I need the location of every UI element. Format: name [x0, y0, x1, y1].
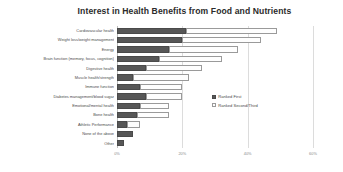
chart-row: Diabetes management/blood sugar: [0, 92, 343, 101]
bar-segment-ranked-second-third: [146, 65, 202, 71]
category-label: None of the above: [0, 129, 114, 138]
category-label: Weight loss/weight management: [0, 35, 114, 44]
stacked-bar: [117, 56, 222, 62]
bar-segment-ranked-first: [117, 93, 146, 99]
category-label: Immune function: [0, 82, 114, 91]
bar-segment-ranked-second-third: [140, 84, 182, 90]
stacked-bar: [117, 112, 169, 118]
chart-row: Muscle health/strength: [0, 73, 343, 82]
bar-segment-ranked-second-third: [137, 112, 170, 118]
bar-segment-ranked-first: [117, 140, 124, 146]
chart-container: Interest in Health Benefits from Food an…: [0, 0, 343, 172]
stacked-bar: [117, 65, 202, 71]
chart-legend: Ranked First Ranked Second/Third: [212, 93, 258, 110]
chart-row: Athletic Performance: [0, 120, 343, 129]
bar-segment-ranked-second-third: [186, 28, 277, 34]
bar-segment-ranked-first: [117, 28, 186, 34]
stacked-bar: [117, 28, 277, 34]
chart-row: Weight loss/weight management: [0, 35, 343, 44]
chart-row: Cardiovascular health: [0, 26, 343, 35]
chart-row: None of the above: [0, 129, 343, 138]
stacked-bar: [117, 140, 124, 146]
x-axis: 0%20%40%60%: [117, 149, 313, 163]
bar-segment-ranked-first: [117, 65, 146, 71]
stacked-bar: [117, 93, 182, 99]
stacked-bar: [117, 74, 189, 80]
bar-segment-ranked-first: [117, 56, 159, 62]
bar-segment-ranked-first: [117, 37, 182, 43]
bar-segment-ranked-second-third: [127, 121, 140, 127]
bar-segment-ranked-second-third: [159, 56, 221, 62]
x-tick-label: 60%: [309, 151, 317, 156]
category-label: Energy: [0, 45, 114, 54]
bar-segment-ranked-first: [117, 74, 133, 80]
bar-segment-ranked-first: [117, 121, 127, 127]
stacked-bar: [117, 103, 169, 109]
bar-segment-ranked-first: [117, 131, 133, 137]
bar-segment-ranked-first: [117, 103, 140, 109]
chart-title: Interest in Health Benefits from Food an…: [0, 6, 343, 16]
category-label: Cardiovascular health: [0, 26, 114, 35]
x-tick-label: 0%: [114, 151, 120, 156]
x-tick-label: 20%: [178, 151, 186, 156]
category-label: Diabetes management/blood sugar: [0, 92, 114, 101]
bar-segment-ranked-first: [117, 46, 169, 52]
legend-label-first: Ranked First: [218, 94, 241, 99]
bar-segment-ranked-first: [117, 84, 140, 90]
bar-segment-ranked-second-third: [169, 46, 238, 52]
legend-swatch-icon-second: [212, 103, 216, 107]
category-label: Muscle health/strength: [0, 73, 114, 82]
stacked-bar: [117, 121, 140, 127]
category-label: Digestive health: [0, 64, 114, 73]
bar-segment-ranked-second-third: [146, 93, 182, 99]
bar-rows: Cardiovascular healthWeight loss/weight …: [0, 26, 343, 148]
legend-label-second: Ranked Second/Third: [218, 103, 258, 108]
chart-row: Immune function: [0, 82, 343, 91]
bar-segment-ranked-second-third: [140, 103, 169, 109]
chart-row: Bone health: [0, 110, 343, 119]
chart-row: Energy: [0, 45, 343, 54]
category-label: Athletic Performance: [0, 120, 114, 129]
stacked-bar: [117, 84, 182, 90]
legend-item-ranked-first: Ranked First: [212, 93, 258, 100]
chart-row: Digestive health: [0, 64, 343, 73]
category-label: Brain function (memory, focus, cognition…: [0, 54, 114, 63]
bar-segment-ranked-first: [117, 112, 137, 118]
category-label: Other: [0, 139, 114, 148]
x-tick-label: 40%: [244, 151, 252, 156]
chart-row: Other: [0, 139, 343, 148]
stacked-bar: [117, 131, 133, 137]
stacked-bar: [117, 46, 238, 52]
legend-swatch-icon-first: [212, 95, 216, 99]
bar-segment-ranked-second-third: [182, 37, 260, 43]
category-label: Bone health: [0, 110, 114, 119]
category-label: Emotional/mental health: [0, 101, 114, 110]
chart-row: Brain function (memory, focus, cognition…: [0, 54, 343, 63]
bar-segment-ranked-second-third: [133, 74, 189, 80]
chart-row: Emotional/mental health: [0, 101, 343, 110]
stacked-bar: [117, 37, 261, 43]
legend-item-ranked-second-third: Ranked Second/Third: [212, 102, 258, 109]
